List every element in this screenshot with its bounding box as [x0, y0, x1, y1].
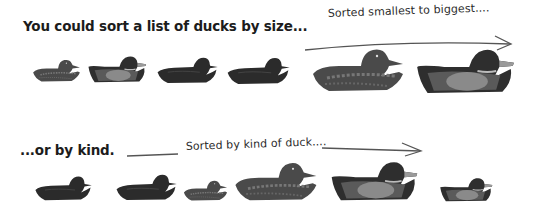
duck-icon	[437, 175, 495, 203]
duck-icon	[228, 158, 322, 203]
duck-icon	[110, 170, 182, 202]
duck-icon	[324, 157, 424, 203]
duck-icon	[180, 178, 230, 202]
duck-icon	[30, 172, 96, 202]
